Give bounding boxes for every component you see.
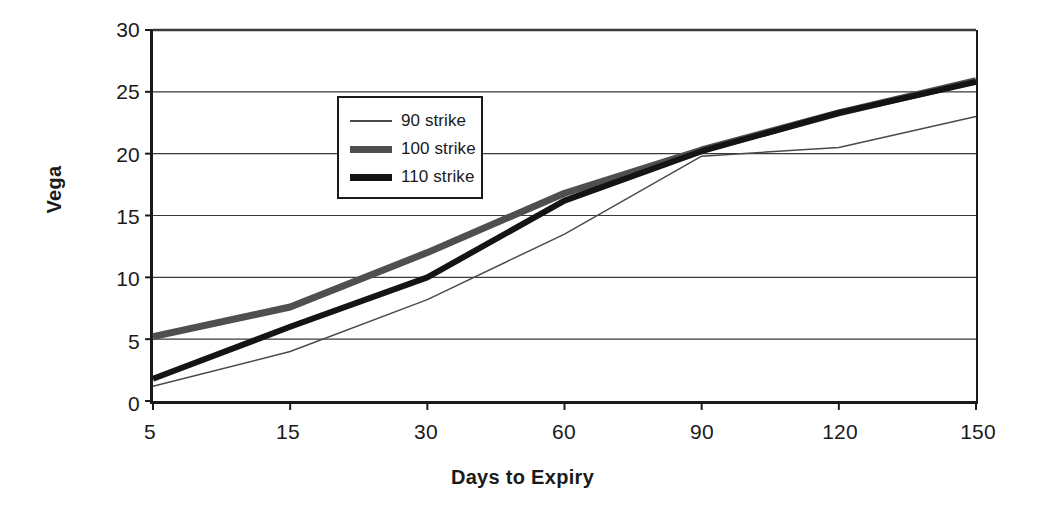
legend-item-110-strike: 110 strike (339, 163, 481, 191)
y-tick-label-10: 10 (96, 268, 140, 289)
legend-line-swatch-90-strike (350, 114, 392, 128)
vega-vs-days-to-expiry-chart: 051015202530 Vega 90 strike 100 strike (0, 0, 1045, 524)
legend-label-100-strike: 100 strike (401, 140, 476, 158)
legend-label-110-strike: 110 strike (401, 168, 474, 186)
series-line-100-strike (153, 81, 976, 337)
y-tick-label-15: 15 (96, 206, 140, 227)
y-tick-label-5: 5 (96, 331, 140, 352)
gridlines (145, 30, 976, 410)
x-tick-label-90: 90 (662, 420, 742, 444)
x-axis-tick-labels: 515306090120150 (0, 420, 1045, 450)
plot-svg (153, 30, 976, 401)
series-line-90-strike (153, 117, 976, 387)
legend-item-90-strike: 90 strike (339, 107, 481, 135)
legend-line-swatch-110-strike (350, 170, 392, 184)
y-tick-label-30: 30 (96, 19, 140, 40)
y-tick-label-20: 20 (96, 144, 140, 165)
legend-item-100-strike: 100 strike (339, 135, 481, 163)
y-tick-label-25: 25 (96, 81, 140, 102)
series-lines (153, 81, 976, 386)
plot-area: 90 strike 100 strike 110 strike (150, 30, 978, 404)
x-tick-label-150: 150 (938, 420, 1018, 444)
legend-line-swatch-100-strike (350, 142, 392, 156)
x-tick-label-30: 30 (386, 420, 466, 444)
x-tick-label-15: 15 (248, 420, 328, 444)
chart-page: 051015202530 Vega 90 strike 100 strike (0, 0, 1045, 524)
y-tick-label-0: 0 (96, 393, 140, 414)
y-axis-title: Vega (43, 130, 66, 250)
legend-label-90-strike: 90 strike (401, 112, 466, 130)
legend: 90 strike 100 strike 110 strike (337, 96, 483, 199)
x-tick-label-5: 5 (110, 420, 190, 444)
x-tick-label-60: 60 (524, 420, 604, 444)
x-axis-title: Days to Expiry (0, 466, 1045, 489)
x-tick-label-120: 120 (800, 420, 880, 444)
series-line-110-strike (153, 82, 976, 379)
